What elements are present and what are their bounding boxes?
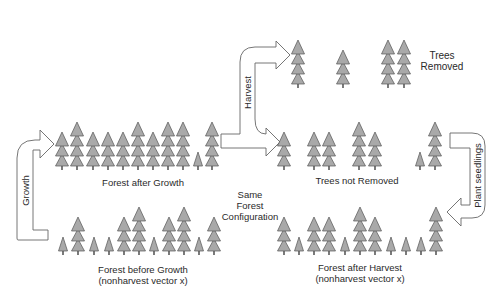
tree-icon [308,132,321,170]
tree-icon [387,237,396,255]
tree-icon [398,40,411,88]
tree-icon [87,132,100,170]
tree-icon [150,237,159,255]
label-forest-after-harvest-line2: (nonharvest vector x) [300,273,420,284]
tree-icon [178,207,191,255]
tree-icon [308,217,321,255]
tree-icon [292,40,305,88]
tree-icon [195,237,204,255]
tree-icon [102,132,115,170]
tree-icon [369,132,382,170]
tree-icon [341,237,350,255]
tree-icon [417,237,426,255]
tree-row-forest-before-growth [59,207,221,255]
tree-icon [429,122,442,170]
tree-icon [163,217,176,255]
tree-icon [117,132,130,170]
tree-icon [402,237,411,255]
label-same-config-line3: Configuration [215,211,285,222]
label-trees-not-removed: Trees not Removed [307,175,407,186]
tree-icon [56,132,69,170]
forest-harvest-diagram: Forest after Growth Forest before Growth… [0,0,498,300]
tree-icon [90,237,99,255]
tree-icon [147,132,160,170]
diagram-canvas [0,0,498,300]
tree-icon [162,122,175,170]
tree-row-forest-after-harvest [278,207,443,255]
tree-icon [369,217,382,255]
tree-icon [208,217,221,255]
tree-icon [416,152,425,170]
tree-row-trees-removed [292,40,411,88]
tree-icon [118,217,131,255]
label-growth: Growth [20,171,31,211]
label-forest-after-harvest-line1: Forest after Harvest [300,262,420,273]
tree-icon [105,237,114,255]
tree-icon [295,237,304,255]
label-trees-removed-line1: Trees [412,50,472,61]
tree-icon [278,132,291,170]
tree-icon [278,217,291,255]
label-forest-after-harvest: Forest after Harvest (nonharvest vector … [300,262,420,284]
tree-icon [132,122,145,170]
tree-icon [323,217,336,255]
tree-icon [337,50,350,88]
tree-icon [194,152,203,170]
label-same-config-line2: Forest [215,200,285,211]
label-trees-removed-line2: Removed [412,61,472,72]
label-forest-before-growth-line1: Forest before Growth [83,264,203,275]
harvest-arrow [221,41,290,156]
label-harvest: Harvest [242,73,253,113]
tree-icon [430,207,443,255]
label-same-forest-configuration: Same Forest Configuration [215,189,285,222]
label-trees-removed: Trees Removed [412,50,472,72]
tree-icon [59,237,68,255]
label-forest-before-growth-line2: (nonharvest vector x) [83,275,203,286]
tree-icon [133,207,146,255]
tree-icon [382,40,395,88]
label-plant-seedlings: Plant seedlings [472,136,483,216]
tree-icon [354,207,367,255]
tree-icon [72,217,85,255]
label-same-config-line1: Same [215,189,285,200]
tree-icon [323,132,336,170]
tree-icon [206,122,219,170]
tree-icon [177,122,190,170]
label-forest-after-growth: Forest after Growth [88,177,198,188]
tree-icon [353,122,366,170]
tree-row-trees-not-removed [278,122,442,170]
label-forest-before-growth: Forest before Growth (nonharvest vector … [83,264,203,286]
tree-icon [71,122,84,170]
tree-row-forest-after-growth [56,122,219,170]
